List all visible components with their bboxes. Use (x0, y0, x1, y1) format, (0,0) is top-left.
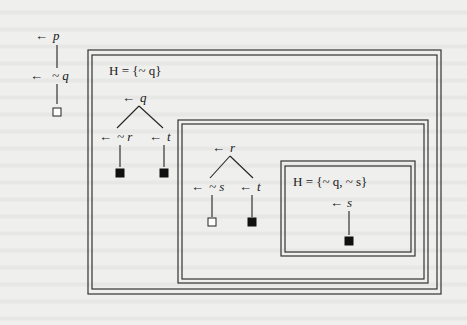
open-leaf-square-icon (208, 218, 216, 226)
node-label-t: t (167, 129, 171, 144)
outer-box (88, 50, 441, 294)
closed-leaf-square-icon (160, 169, 168, 177)
tree-edge (230, 156, 253, 178)
node-label-not-q: ~ q (52, 68, 69, 83)
node-label-not-r: ~ r (117, 129, 133, 144)
node-label-t: t (257, 179, 261, 194)
node-label-p: p (52, 28, 60, 43)
tree-4: H = {~ q, ~ s} ← s (293, 174, 367, 245)
arrow-left-icon: ← (99, 129, 112, 144)
tree-2: H = {~ q} ← q ← ~ r ← t (99, 63, 171, 177)
node-label-r: r (230, 140, 236, 155)
closed-leaf-square-icon (248, 218, 256, 226)
arrow-left-icon: ← (191, 179, 204, 194)
tree-edge (117, 106, 139, 128)
arrow-left-icon: ← (149, 129, 162, 144)
arrow-left-icon: ← (330, 195, 343, 210)
tree-1: ← p ← ~ q (30, 28, 69, 116)
tree-3: ← r ← ~ s ← t (191, 140, 261, 226)
closed-leaf-square-icon (116, 169, 124, 177)
open-leaf-square-icon (53, 108, 61, 116)
node-label-not-s: ~ s (209, 179, 224, 194)
tree-edge (139, 106, 163, 128)
arrow-left-icon: ← (239, 179, 252, 194)
node-label-q: q (140, 90, 147, 105)
outer-box-outer-line (88, 50, 441, 294)
tree-edge (210, 156, 230, 178)
arrow-left-icon: ← (35, 28, 48, 43)
node-label-s: s (347, 195, 352, 210)
hypothesis-label: H = {~ q, ~ s} (293, 174, 367, 189)
hypothesis-label: H = {~ q} (109, 63, 161, 78)
arrow-left-icon: ← (212, 140, 225, 155)
arrow-left-icon: ← (122, 90, 135, 105)
closed-leaf-square-icon (345, 237, 353, 245)
arrow-left-icon: ← (30, 68, 43, 83)
tableau-diagram: ← p ← ~ q H = {~ q} ← q ← ~ r ← t ← r ← … (0, 0, 467, 325)
